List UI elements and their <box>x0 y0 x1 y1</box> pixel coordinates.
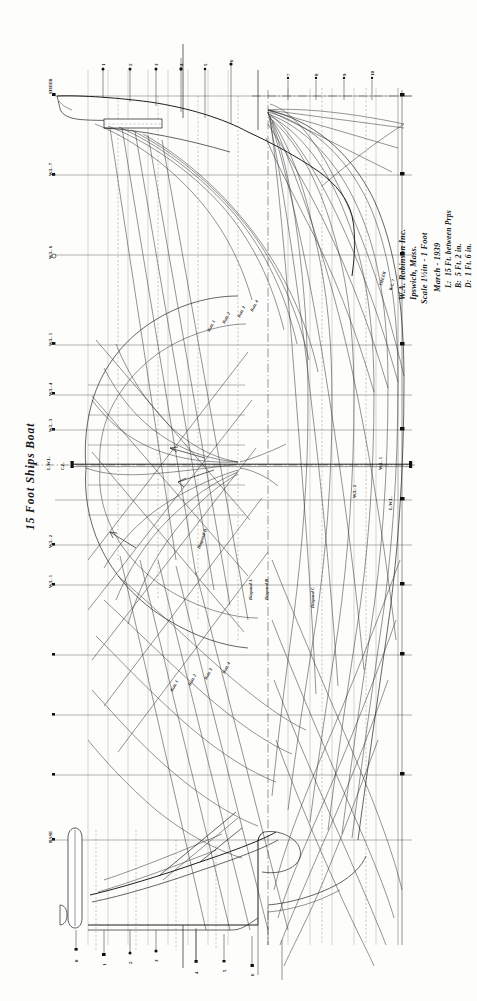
station-number: 3 <box>154 960 159 963</box>
body-plan-grid <box>88 385 245 515</box>
title-block-scale: Scale 1½in - 1 Foot <box>420 233 429 305</box>
sheer-hidden-construction <box>96 96 238 950</box>
station-number: 2 <box>128 962 133 965</box>
station-number: 9 <box>342 74 347 77</box>
halfbreadth-transom <box>268 856 366 945</box>
spec-depth-key: D: <box>464 280 473 288</box>
station-number: 4 <box>179 64 184 67</box>
annotation-arrows <box>110 447 214 548</box>
waterline-label: SHEER <box>48 78 53 94</box>
centerline-label: C.L. <box>60 462 65 470</box>
stern-keel-rudder-detail <box>60 812 301 975</box>
bottom-station-ticks <box>75 925 283 980</box>
station-number: 0 <box>74 960 79 963</box>
station-number: 2 <box>128 64 133 67</box>
title-block-date: March - 1939 <box>433 243 442 292</box>
left-edge-waterline-ticks <box>52 93 56 841</box>
waterline-label: W.L. 3 <box>48 419 53 432</box>
station-number: 5 <box>222 970 227 973</box>
diagonal-label: Diagonal B <box>264 579 269 600</box>
station-number: 4 <box>194 972 199 975</box>
station-number: 8 <box>314 74 319 77</box>
diagonal-construction-rays <box>110 128 248 620</box>
waterline-label-lwl: L.W.L. <box>46 456 51 470</box>
spec-length-key: L: <box>444 280 453 288</box>
waterline-label: W.L. 7 <box>48 163 53 176</box>
drawing-sheet: .thin { fill:none; stroke:#2a2a2a; strok… <box>0 0 477 1001</box>
lines-plan-drawing: .thin { fill:none; stroke:#2a2a2a; strok… <box>0 0 477 1001</box>
stem-and-sheer-profile <box>57 96 248 152</box>
station-number: 5 <box>203 64 208 67</box>
waterline-label: W.L. 1 <box>378 457 383 470</box>
waterline-label-base: BASE <box>48 831 53 843</box>
waterline-curves <box>268 110 404 840</box>
aft-diagonal-rays <box>120 556 288 930</box>
spec-length-value: 15 Ft. between Prps <box>444 210 453 276</box>
diagonal-label: Diagonal C <box>310 587 315 608</box>
station-number: 7 <box>286 74 291 77</box>
title-block-location: Ipswich, Mass. <box>409 246 418 300</box>
page-title: 15 Foot Ships Boat <box>24 423 36 530</box>
station-number: 6 <box>250 974 255 977</box>
halfbreadth-station-diagonals <box>266 104 404 694</box>
waterline-label: W.L. 1 <box>48 575 53 588</box>
station-number: 10 <box>370 71 375 76</box>
waterline-label: W.L. 4 <box>48 383 53 396</box>
waterline-label: W.L. 2 <box>48 535 53 548</box>
top-station-leaders <box>102 44 405 130</box>
body-plan-sections <box>86 344 286 624</box>
sheer-line <box>248 132 355 276</box>
waterline-label: W.L. 6 <box>48 246 53 259</box>
waterline-label: W.L. 5 <box>48 333 53 346</box>
spec-depth-value: 1 Ft. 6 in. <box>464 243 473 276</box>
spec-beam-value: 5 Ft. 2 in. <box>454 243 463 276</box>
waterline-label: W.L. 2 <box>352 485 357 498</box>
body-plan-tangent-lines <box>88 340 268 752</box>
station-number: 6 <box>229 60 234 63</box>
title-block-company: W.A. Robinson Inc. <box>398 229 407 300</box>
diagonal-label: Diagonal A <box>248 579 253 600</box>
station-number: 3 <box>154 64 159 67</box>
spec-beam-key: B: <box>454 280 463 288</box>
half-breadth-plan-view <box>252 88 412 966</box>
station-number: 1 <box>101 64 106 67</box>
waterline-label: L.W.L. <box>388 496 393 510</box>
station-number: 1 <box>102 964 107 967</box>
